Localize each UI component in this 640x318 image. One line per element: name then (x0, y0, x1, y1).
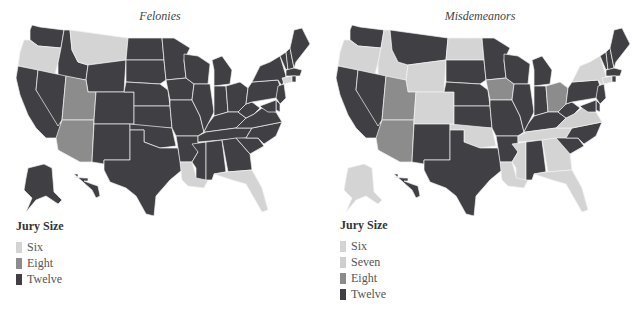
state-hi (74, 174, 100, 198)
state-az (376, 120, 414, 162)
state-mt (390, 30, 448, 65)
state-ma (606, 68, 622, 76)
legend-item-six: Six (340, 238, 388, 254)
state-mi (532, 56, 552, 86)
legend-title: Jury Size (16, 219, 64, 234)
state-sd (446, 60, 486, 84)
state-me (290, 28, 310, 68)
legend-swatch (16, 274, 22, 285)
legend-swatch (340, 273, 346, 284)
state-fl (214, 170, 268, 212)
legend-item-seven: Seven (340, 254, 388, 270)
state-nm (92, 124, 130, 164)
state-wi (504, 54, 530, 84)
state-nj (596, 84, 606, 104)
legend-label: Eight (351, 271, 377, 286)
state-ak (344, 164, 382, 212)
state-ri (292, 76, 296, 82)
state-ak (24, 164, 62, 212)
state-wy (86, 60, 126, 92)
state-ri (612, 76, 616, 82)
legend-label: Seven (351, 255, 380, 270)
state-in (214, 86, 228, 116)
legend-label: Eight (27, 256, 53, 271)
state-co (414, 92, 454, 124)
legend-label: Twelve (351, 287, 386, 302)
state-nm (412, 124, 450, 164)
state-nd (446, 38, 484, 60)
legend-item-six: Six (16, 239, 64, 255)
legend-title: Jury Size (340, 218, 388, 233)
state-wi (184, 54, 210, 84)
legend-item-twelve: Twelve (340, 286, 388, 302)
state-ia (486, 78, 514, 100)
us-map-felonies (0, 20, 320, 220)
state-nj (276, 84, 286, 104)
state-co (94, 92, 134, 124)
us-map-misdemeanors (320, 20, 640, 220)
legend-swatch (340, 289, 346, 300)
state-sd (126, 60, 166, 84)
misdemeanors-panel: Misdemeanors Jury Size SixSevenEightTwel… (320, 0, 640, 318)
legend-label: Twelve (27, 272, 62, 287)
legend-swatch (340, 241, 346, 252)
legend-swatch (16, 258, 22, 269)
legend-label: Six (351, 239, 367, 254)
legend-item-eight: Eight (16, 255, 64, 271)
state-in (534, 86, 548, 116)
legend-swatch (16, 242, 22, 253)
state-me (610, 28, 630, 68)
state-fl (534, 170, 588, 212)
legend-items: SixSevenEightTwelve (340, 238, 388, 302)
state-ia (166, 78, 194, 100)
legend: Jury Size SixEightTwelve (16, 219, 64, 287)
state-mi (212, 56, 232, 86)
legend-item-eight: Eight (340, 270, 388, 286)
legend-swatch (340, 257, 346, 268)
state-nd (126, 38, 164, 60)
legend-items: SixEightTwelve (16, 239, 64, 287)
state-wy (406, 60, 446, 92)
state-ma (286, 68, 302, 76)
state-mt (70, 30, 128, 65)
legend-label: Six (27, 240, 43, 255)
legend-item-twelve: Twelve (16, 271, 64, 287)
state-az (56, 120, 94, 162)
state-hi (394, 174, 420, 198)
legend: Jury Size SixSevenEightTwelve (340, 218, 388, 302)
felonies-panel: Felonies Jury Size SixEightTwelve (0, 0, 320, 318)
